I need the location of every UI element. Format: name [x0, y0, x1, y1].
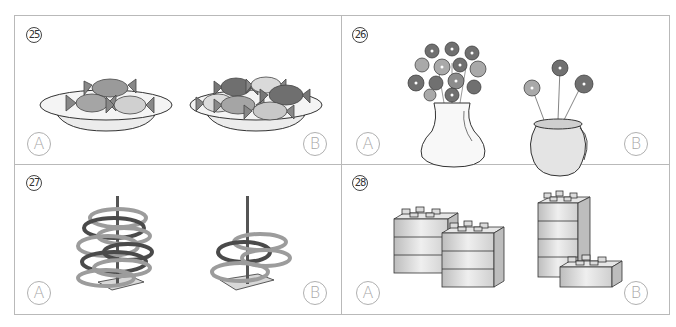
blocks-a-image: [390, 207, 510, 297]
option-a-label[interactable]: A: [356, 132, 380, 156]
question-number: 25: [26, 27, 42, 43]
cropped-text-fragment: [96, 0, 130, 3]
question-26-panel: 26 A B: [342, 15, 670, 164]
question-25-panel: 25 A B: [14, 15, 341, 164]
ring-toss-a-image: [68, 194, 168, 294]
option-b-label[interactable]: B: [303, 281, 327, 305]
option-a-label[interactable]: A: [27, 132, 51, 156]
question-number: 28: [352, 175, 368, 191]
ring-toss-b-image: [200, 194, 300, 294]
candy-plate-b-image: [186, 73, 326, 133]
question-28-panel: 28 A B: [342, 165, 670, 315]
option-b-label[interactable]: B: [624, 281, 648, 305]
question-number: 26: [352, 27, 368, 43]
flower-vase-a-image: [404, 37, 504, 167]
candy-plate-a-image: [36, 73, 176, 133]
option-b-label[interactable]: B: [624, 132, 648, 156]
option-a-label[interactable]: A: [27, 281, 51, 305]
question-27-panel: 27 A B: [14, 165, 341, 315]
question-number: 27: [26, 175, 42, 191]
option-a-label[interactable]: A: [356, 281, 380, 305]
blocks-b-image: [534, 191, 634, 291]
flower-vase-b-image: [520, 48, 600, 168]
option-b-label[interactable]: B: [303, 132, 327, 156]
